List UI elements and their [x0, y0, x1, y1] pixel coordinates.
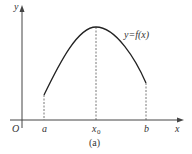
x-axis-label: x	[174, 123, 180, 134]
tick-label-a: a	[42, 123, 47, 134]
y-axis-arrow-icon	[20, 5, 25, 12]
curve-label: y=f(x)	[123, 29, 150, 41]
tick-label-b: b	[144, 123, 149, 134]
tick-label-x0-subscript: 0	[97, 128, 101, 136]
function-graph: y x O a x 0 b y=f(x) (a)	[0, 0, 192, 154]
y-axis-label: y	[13, 1, 19, 12]
figure-caption: (a)	[89, 137, 100, 149]
x-axis-arrow-icon	[177, 118, 184, 123]
origin-label: O	[12, 123, 19, 134]
